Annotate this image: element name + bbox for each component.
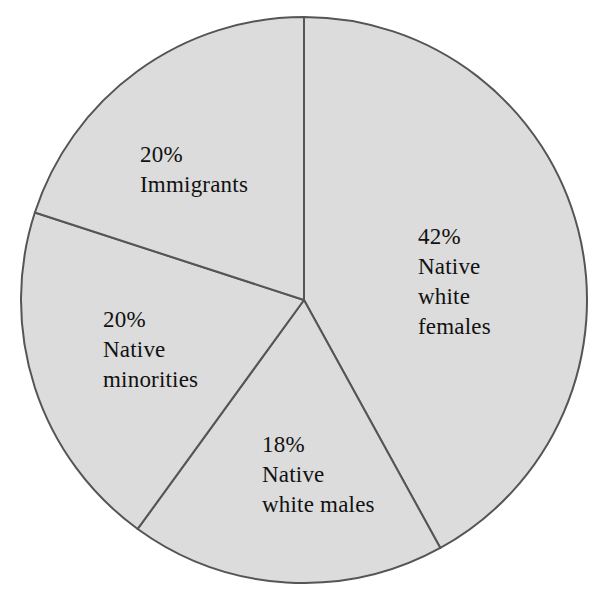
pie-label-text-line: Native xyxy=(418,252,491,282)
pie-label-text-line: white xyxy=(418,282,491,312)
pie-label-native-white-males: 18% Native white males xyxy=(262,430,375,520)
pie-label-text-line: Immigrants xyxy=(140,170,248,200)
pie-label-native-minorities: 20% Native minorities xyxy=(103,305,198,395)
pie-label-text-line: females xyxy=(418,312,491,342)
pie-label-text-line: minorities xyxy=(103,365,198,395)
pie-label-text-line: Native xyxy=(103,335,198,365)
pie-label-immigrants: 20% Immigrants xyxy=(140,140,248,200)
pie-label-percent: 20% xyxy=(140,140,248,170)
pie-label-text-line: Native xyxy=(262,460,375,490)
pie-label-native-white-females: 42% Native white females xyxy=(418,222,491,342)
pie-label-percent: 20% xyxy=(103,305,198,335)
pie-label-percent: 18% xyxy=(262,430,375,460)
pie-label-text-line: white males xyxy=(262,490,375,520)
pie-chart-figure: 42% Native white females 18% Native whit… xyxy=(0,0,605,596)
pie-label-percent: 42% xyxy=(418,222,491,252)
